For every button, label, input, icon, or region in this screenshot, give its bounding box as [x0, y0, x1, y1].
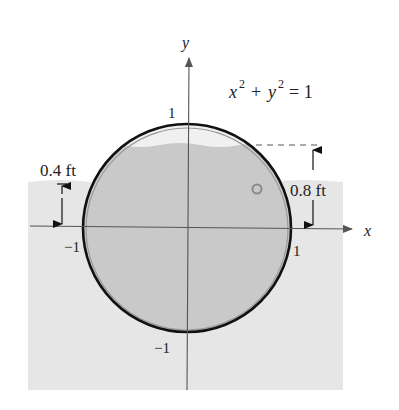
inside-depth-label: 0.8 ft — [290, 181, 326, 200]
floating-drum-diagram: y x 1 −1 −1 1 0.4 ft 0.8 ft x 2 + y 2 = … — [0, 0, 399, 410]
svg-text:2: 2 — [239, 77, 245, 91]
circle-equation: x 2 + y 2 = 1 — [228, 77, 313, 102]
svg-text:x: x — [228, 82, 237, 102]
tick-label-x-left: −1 — [64, 239, 80, 255]
tick-label-y-top: 1 — [168, 105, 176, 121]
x-axis-label: x — [363, 222, 371, 239]
svg-text:+: + — [251, 82, 261, 102]
tick-label-x-right: 1 — [293, 243, 301, 259]
tick-label-y-bottom: −1 — [154, 340, 170, 356]
svg-text:= 1: = 1 — [289, 82, 313, 102]
diagram-svg: y x 1 −1 −1 1 0.4 ft 0.8 ft x 2 + y 2 = … — [0, 0, 399, 410]
svg-text:2: 2 — [278, 77, 284, 91]
svg-text:y: y — [266, 82, 276, 102]
outside-depth-label: 0.4 ft — [40, 161, 76, 180]
y-axis-label: y — [180, 34, 190, 52]
